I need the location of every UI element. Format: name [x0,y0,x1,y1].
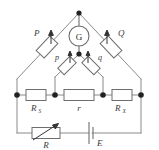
inner-bridge-wiring [55,54,103,95]
link-resistor-body [64,90,94,101]
unknown-resistor-body [112,90,132,101]
unknown-resistor [112,90,132,101]
rheostat-label: R [42,140,49,150]
circuit-svg: G R [0,0,159,150]
inner-arm-p-arrow-head [68,51,72,56]
ratio-arm-q-arrow-head [105,30,110,35]
inner-arm-p-label: p [54,53,59,62]
inner-arm-q-arrow-head [86,51,90,56]
node-row-mid-left [52,92,58,98]
battery-label: E [96,138,103,148]
ratio-arm-p-label: P [33,28,40,38]
inner-arm-q-label: q [98,53,102,62]
rheostat [32,124,60,141]
galvanometer-label: G [76,32,83,42]
link-resistor-label: r [77,103,81,113]
circuit-diagram: G R [0,0,159,150]
node-row-right [138,92,144,98]
unknown-resistor-label: R [114,103,121,113]
node-top [76,10,81,15]
standard-resistor-body [26,90,46,101]
node-row-mid-right [100,92,106,98]
ratio-arm-p-arrow-head [49,30,54,35]
standard-resistor-subscript: S [39,108,42,114]
node-inner-center [76,51,81,56]
node-row-left [14,92,20,98]
link-resistor [64,90,94,101]
ratio-arm-q-label: Q [118,28,125,38]
standard-resistor [26,90,46,101]
unknown-resistor-subscript: X [122,108,127,114]
standard-resistor-label: R [30,103,37,113]
